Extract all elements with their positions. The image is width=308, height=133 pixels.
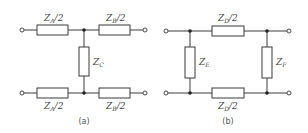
junction-dot (82, 28, 86, 32)
caption-a: (a) (78, 117, 89, 126)
label-zd-top: ZD/2 (217, 13, 238, 24)
resistor-zc (79, 47, 89, 76)
terminal (287, 91, 291, 95)
terminal (287, 29, 291, 33)
label-zc: ZC (92, 57, 104, 68)
label-zb-top: ZB/2 (105, 13, 126, 24)
junction-dot (265, 29, 269, 33)
resistor-ze (185, 47, 195, 78)
resistor-zd-bottom (212, 88, 244, 98)
resistor-zb-bottom (99, 88, 130, 98)
label-zf: ZF (275, 57, 287, 68)
terminal (20, 91, 24, 95)
circuit-diagram: ZA/2 ZB/2 ZC ZA/2 ZB/2 (a) (0, 0, 308, 133)
resistor-zf (262, 47, 272, 78)
label-zd-bottom: ZD/2 (217, 101, 238, 112)
label-zb-bottom: ZB/2 (105, 101, 126, 112)
resistor-za-bottom (37, 88, 68, 98)
junction-dot (188, 91, 192, 95)
terminal (143, 28, 147, 32)
label-za-bottom: ZA/2 (43, 101, 64, 112)
panel-b: ZD/2 ZE ZF ZD/2 (b) (164, 13, 291, 126)
junction-dot (82, 91, 86, 95)
terminal (143, 91, 147, 95)
label-za-top: ZA/2 (43, 13, 64, 24)
resistor-zd-top (212, 26, 244, 36)
caption-b: (b) (222, 117, 233, 126)
terminal (20, 28, 24, 32)
panel-a: ZA/2 ZB/2 ZC ZA/2 ZB/2 (a) (20, 13, 147, 126)
terminal (164, 91, 168, 95)
resistor-za-top (37, 25, 68, 35)
junction-dot (265, 91, 269, 95)
label-ze: ZE (198, 57, 210, 68)
junction-dot (188, 29, 192, 33)
resistor-zb-top (99, 25, 130, 35)
terminal (164, 29, 168, 33)
